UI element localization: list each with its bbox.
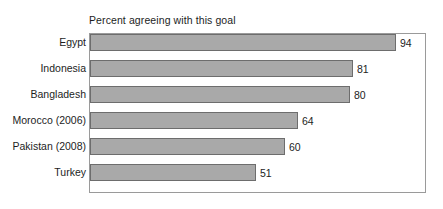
bar-value-pakistan: 60 [289,141,301,152]
bar-pakistan[interactable] [90,138,285,155]
plot-area: 94 81 80 64 60 51 [90,34,425,192]
bar-bangladesh[interactable] [90,86,350,103]
chart-title: Percent agreeing with this goal [89,14,236,26]
bar-value-morocco: 64 [302,115,314,126]
bar-value-turkey: 51 [260,167,272,178]
category-axis: Egypt Indonesia Bangladesh Morocco (2006… [0,33,86,193]
category-label-morocco: Morocco (2006) [0,115,86,126]
bar-value-egypt: 94 [400,37,412,48]
plot-frame: 94 81 80 64 60 51 [89,33,426,193]
category-label-indonesia: Indonesia [0,63,86,74]
bar-turkey[interactable] [90,164,256,181]
category-label-egypt: Egypt [0,37,86,48]
bar-value-indonesia: 81 [357,63,369,74]
bar-egypt[interactable] [90,34,396,51]
bar-value-bangladesh: 80 [354,89,366,100]
category-label-bangladesh: Bangladesh [0,89,86,100]
bar-indonesia[interactable] [90,60,353,77]
category-label-turkey: Turkey [0,167,86,178]
category-label-pakistan: Pakistan (2008) [0,141,86,152]
chart-figure: Percent agreeing with this goal Egypt In… [0,0,443,209]
bar-morocco[interactable] [90,112,298,129]
